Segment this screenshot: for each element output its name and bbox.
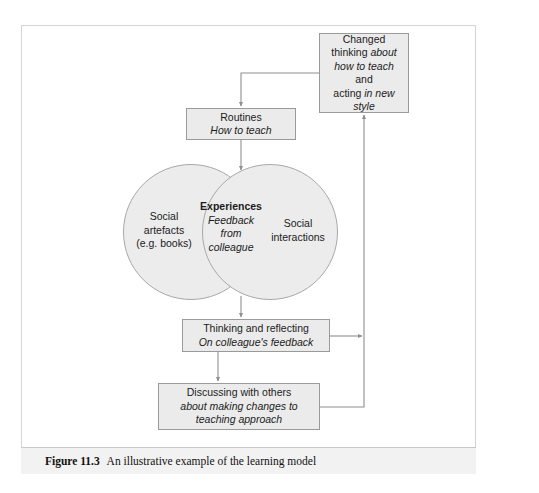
venn-right-line-2: interactions	[262, 231, 334, 245]
figure-caption-title: An illustrative example of the learning …	[107, 455, 317, 467]
figure-caption: Figure 11.3 An illustrative example of t…	[21, 455, 316, 467]
venn-center-line-4: colleague	[198, 241, 264, 255]
discussing-line-1: Discussing with others	[187, 386, 291, 400]
venn-left-line-3: (e.g. books)	[126, 237, 202, 251]
changed-thinking-line-2-plain: thinking	[331, 46, 370, 58]
venn-right-line-1: Social	[262, 217, 334, 231]
changed-thinking-line-4-italic: in new	[364, 87, 394, 99]
venn-center-line-3: from	[198, 227, 264, 241]
changed-thinking-line-4-plain: acting	[333, 87, 364, 99]
changed-thinking-line-1: Changed	[343, 33, 386, 47]
venn-label-social-interactions: Social interactions	[262, 217, 334, 244]
changed-thinking-line-2-italic: about	[370, 46, 396, 58]
venn-center-title: Experiences	[198, 200, 264, 214]
figure-frame: Social artefacts (e.g. books) Social int…	[21, 25, 476, 468]
node-discussing-with-others: Discussing with others about making chan…	[158, 383, 320, 430]
venn-left-line-2: artefacts	[126, 224, 202, 238]
thinking-reflecting-line-1: Thinking and reflecting	[203, 322, 309, 336]
changed-thinking-line-3-italic: how to teach	[334, 60, 394, 72]
venn-left-line-1: Social	[126, 210, 202, 224]
figure-caption-band: Figure 11.3 An illustrative example of t…	[21, 447, 476, 474]
changed-thinking-line-2: thinking about	[331, 46, 396, 60]
discussing-line-2: about making changes to	[180, 400, 297, 414]
node-changed-thinking: Changed thinking about how to teach and …	[319, 33, 409, 113]
venn-label-experiences: Experiences Feedback from colleague	[198, 200, 264, 254]
changed-thinking-line-4: acting in new	[333, 87, 394, 101]
venn-center-line-2: Feedback	[198, 214, 264, 228]
discussing-line-3: teaching approach	[196, 413, 282, 427]
routines-line-2: How to teach	[210, 124, 271, 138]
changed-thinking-line-5: style	[353, 100, 375, 114]
venn-label-social-artefacts: Social artefacts (e.g. books)	[126, 210, 202, 251]
figure-caption-number: Figure 11.3	[45, 455, 100, 467]
changed-thinking-line-3: how to teach and	[325, 60, 403, 87]
diagram-canvas: Social artefacts (e.g. books) Social int…	[22, 26, 475, 436]
connector-changed-thinking-to-routines	[241, 73, 319, 106]
changed-thinking-line-3-plain: and	[355, 73, 373, 85]
node-thinking-and-reflecting: Thinking and reflecting On colleague's f…	[182, 319, 330, 352]
thinking-reflecting-line-2: On colleague's feedback	[199, 336, 314, 350]
node-routines: Routines How to teach	[186, 108, 296, 140]
routines-line-1: Routines	[220, 111, 261, 125]
figure-container: Social artefacts (e.g. books) Social int…	[0, 0, 539, 493]
